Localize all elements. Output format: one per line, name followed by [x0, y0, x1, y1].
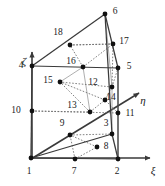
edge-14-15 — [60, 82, 105, 100]
node-label-18: 18 — [53, 28, 63, 38]
edge-16-15 — [60, 67, 83, 82]
node-label-17: 17 — [119, 37, 129, 47]
axis-label-xi: ξ — [151, 165, 156, 176]
axis-label-eta: η — [140, 95, 145, 106]
node-marker-10 — [30, 109, 35, 114]
edge-12-17 — [112, 44, 113, 87]
node-marker-2 — [116, 157, 121, 162]
axis-eta — [31, 93, 139, 159]
edge-7-9 — [70, 135, 75, 159]
node-label-3: 3 — [104, 119, 109, 129]
node-marker-3 — [110, 132, 115, 137]
node-label-1: 1 — [27, 167, 32, 177]
node-marker-11 — [116, 111, 121, 116]
edge-10-13 — [32, 111, 90, 112]
node-marker-12 — [110, 85, 115, 90]
edge-2-3 — [112, 134, 118, 159]
node-label-16: 16 — [66, 57, 76, 67]
node-label-10: 10 — [11, 106, 21, 116]
node-marker-7 — [73, 157, 78, 162]
node-marker-16 — [81, 65, 86, 70]
node-marker-15 — [58, 80, 63, 85]
node-label-14: 14 — [106, 93, 116, 103]
node-label-7: 7 — [72, 167, 77, 177]
node-label-2: 2 — [115, 167, 120, 177]
axis-label-zeta: ζ — [22, 56, 26, 67]
node-label-13: 13 — [67, 101, 77, 111]
node-label-11: 11 — [125, 109, 134, 119]
edge-9-3 — [70, 134, 112, 135]
finite-element-prism-figure: 123456789101112131415161718ζξη — [0, 0, 165, 186]
node-marker-18 — [68, 43, 73, 48]
edge-13-14 — [90, 100, 105, 112]
node-label-9: 9 — [60, 119, 65, 129]
node-marker-8 — [95, 145, 100, 150]
node-marker-5 — [116, 66, 121, 71]
node-marker-13 — [88, 110, 93, 115]
node-marker-9 — [68, 133, 73, 138]
axes-group — [31, 52, 150, 159]
node-label-15: 15 — [43, 76, 53, 86]
node-label-8: 8 — [104, 142, 109, 152]
edge-1-3 — [31, 134, 112, 158]
node-label-12: 12 — [88, 78, 98, 88]
node-marker-6 — [103, 12, 108, 17]
node-marker-17 — [111, 42, 116, 47]
node-label-6: 6 — [113, 7, 118, 17]
node-label-5: 5 — [127, 62, 132, 72]
edge-13-16 — [83, 67, 90, 112]
node-marker-4 — [30, 64, 35, 69]
edge-12-5 — [112, 68, 118, 87]
node-marker-1 — [29, 156, 34, 161]
